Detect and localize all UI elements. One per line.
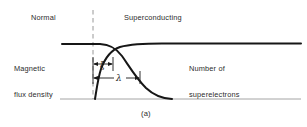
number-of-superelectrons-line1: Number of	[189, 65, 240, 74]
region-label-normal: Normal	[31, 14, 56, 23]
magnetic-flux-density-line2: flux density	[14, 91, 53, 100]
curve-label-number-of-superelectrons: Number of superelectrons	[189, 48, 240, 108]
penetration-depth-symbol: λ	[116, 73, 122, 83]
figure-caption: (a)	[141, 110, 151, 119]
curve-label-magnetic-flux-density: Magnetic flux density	[14, 48, 53, 108]
coherence-length-symbol: ξ	[100, 60, 105, 70]
magnetic-flux-density-line1: Magnetic	[14, 65, 53, 74]
number-of-superelectrons-line2: superelectrons	[189, 91, 240, 100]
region-label-superconducting: Superconducting	[124, 14, 182, 23]
